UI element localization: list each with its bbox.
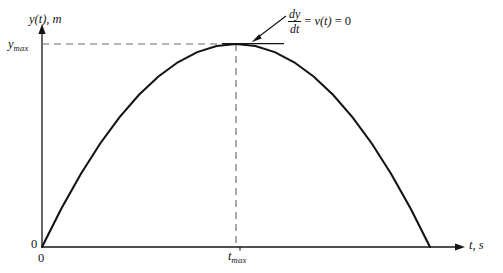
derivative-fraction: dy dt xyxy=(288,8,301,35)
t-max-subscript: max xyxy=(231,255,246,265)
plot-canvas xyxy=(0,0,503,273)
y-axis-title: y(t), m xyxy=(29,13,62,26)
y-axis-title-text: y(t), m xyxy=(29,12,62,26)
fraction-numerator: dy xyxy=(288,8,301,21)
y-max-symbol: y xyxy=(8,37,14,51)
velocity-term: v(t) xyxy=(314,15,331,28)
x-axis-title: t, s xyxy=(469,239,484,252)
t-max-tick-label: tmax xyxy=(228,250,246,263)
x-axis xyxy=(42,243,465,250)
equals-sign-1: = xyxy=(304,15,311,28)
fraction-denominator: dt xyxy=(289,22,300,35)
origin-label-x-axis: 0 xyxy=(38,252,44,265)
annotation-value: 0 xyxy=(345,15,351,28)
y-max-tick-label: ymax xyxy=(8,38,28,51)
x-axis-title-text: t, s xyxy=(469,238,484,252)
derivative-annotation: dy dt = v(t) = 0 xyxy=(288,8,351,35)
figure-container: y(t), m t, s ymax tmax 0 0 dy dt = v(t) … xyxy=(0,0,503,273)
y-axis xyxy=(38,24,45,247)
annotation-arrow xyxy=(252,16,287,42)
y-max-subscript: max xyxy=(14,43,29,53)
origin-label-y-axis: 0 xyxy=(31,238,37,251)
equals-sign-2: = xyxy=(335,15,342,28)
